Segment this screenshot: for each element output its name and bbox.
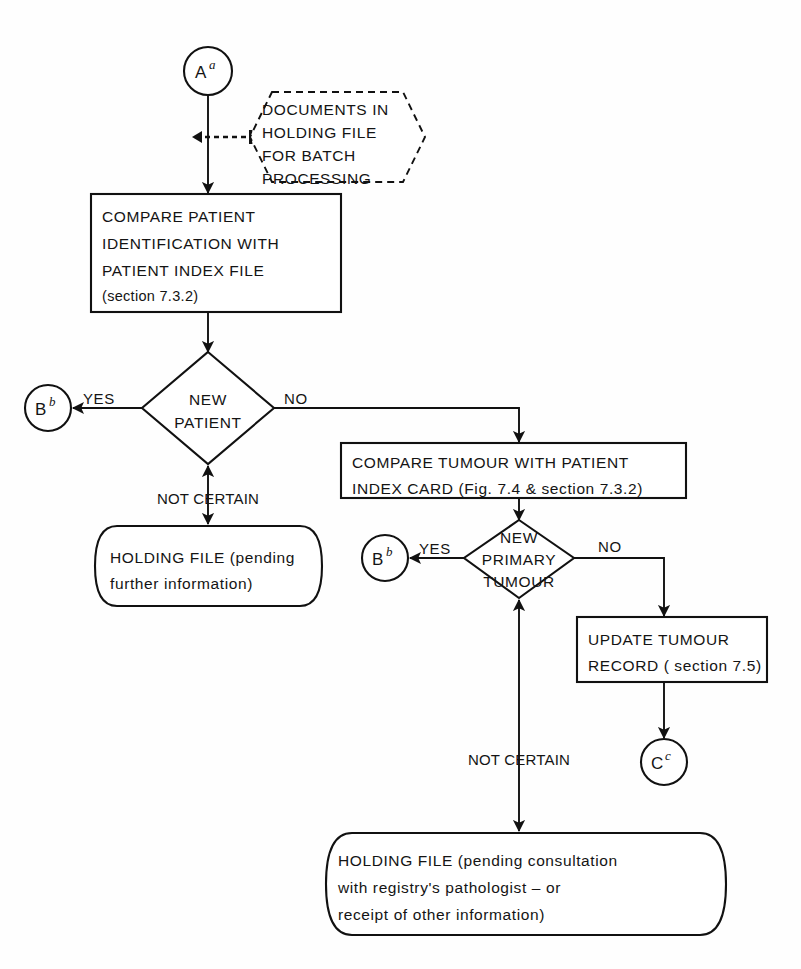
- flowchart-diagram: A a DOCUMENTS IN HOLDING FILE FOR BATCH …: [0, 0, 801, 969]
- terminal-holding-file-2-line-1: HOLDING FILE (pending consultation: [338, 852, 618, 869]
- process-compare-tumour[interactable]: COMPARE TUMOUR WITH PATIENT INDEX CARD (…: [341, 443, 686, 498]
- label-new-primary-not-certain: NOT CERTAIN: [468, 751, 570, 768]
- process-compare-tumour-line-2: INDEX CARD (Fig. 7.4 & section 7.3.2): [352, 480, 643, 497]
- label-new-patient-no: NO: [284, 390, 308, 407]
- decision-new-primary-tumour-line-3: TUMOUR: [483, 573, 555, 590]
- decision-new-patient[interactable]: NEW PATIENT: [142, 352, 274, 464]
- decision-new-primary-tumour-line-1: NEW: [500, 529, 538, 546]
- decision-new-primary-tumour[interactable]: NEW PRIMARY TUMOUR: [464, 520, 574, 598]
- terminal-holding-file-2-line-3: receipt of other information): [338, 906, 545, 923]
- connector-c-superscript: c: [665, 748, 671, 763]
- connector-b-top[interactable]: B b: [25, 385, 71, 431]
- terminal-holding-file-2[interactable]: HOLDING FILE (pending consultation with …: [326, 833, 726, 935]
- process-compare-patient-line-4: (section 7.3.2): [102, 288, 198, 304]
- edge-new-primary-no: [574, 558, 664, 616]
- terminal-holding-file-2-line-2: with registry's pathologist – or: [337, 879, 561, 896]
- terminal-holding-file-1-line-2: further information): [110, 575, 253, 592]
- connector-b-mid-letter: B: [372, 550, 383, 569]
- decision-new-patient-line-1: NEW: [189, 391, 227, 408]
- connector-a-superscript: a: [209, 57, 216, 72]
- process-compare-patient-line-1: COMPARE PATIENT: [102, 208, 256, 225]
- label-new-primary-no: NO: [598, 538, 622, 555]
- process-compare-patient-line-2: IDENTIFICATION WITH: [102, 235, 279, 252]
- annotation-line-3: FOR BATCH: [262, 147, 356, 164]
- label-new-patient-yes: YES: [83, 390, 115, 407]
- decision-new-patient-line-2: PATIENT: [174, 414, 241, 431]
- connector-b-mid[interactable]: B b: [362, 535, 408, 581]
- process-compare-patient-line-3: PATIENT INDEX FILE: [102, 262, 264, 279]
- process-compare-patient-identification[interactable]: COMPARE PATIENT IDENTIFICATION WITH PATI…: [91, 194, 341, 312]
- connector-b-mid-superscript: b: [386, 544, 393, 559]
- annotation-line-2: HOLDING FILE: [262, 124, 377, 141]
- annotation-line-1: DOCUMENTS IN: [262, 101, 389, 118]
- connector-c-letter: C: [651, 754, 663, 773]
- label-new-patient-not-certain: NOT CERTAIN: [157, 490, 259, 507]
- annotation-documents-holding-file: DOCUMENTS IN HOLDING FILE FOR BATCH PROC…: [250, 92, 425, 187]
- terminal-holding-file-1[interactable]: HOLDING FILE (pending further informatio…: [95, 526, 322, 606]
- process-update-tumour-line-1: UPDATE TUMOUR: [588, 631, 730, 648]
- edge-new-patient-no: [274, 408, 519, 442]
- connector-b-top-letter: B: [35, 400, 46, 419]
- annotation-line-4: PROCESSING: [262, 170, 371, 187]
- connector-c[interactable]: C c: [641, 739, 687, 785]
- process-update-tumour-record[interactable]: UPDATE TUMOUR RECORD ( section 7.5): [577, 617, 767, 682]
- connector-b-top-superscript: b: [49, 394, 56, 409]
- terminal-holding-file-1-line-1: HOLDING FILE (pending: [110, 549, 295, 566]
- label-new-primary-yes: YES: [419, 540, 451, 557]
- connector-a-letter: A: [195, 63, 207, 82]
- flowchart-canvas: A a DOCUMENTS IN HOLDING FILE FOR BATCH …: [0, 0, 801, 969]
- connector-a[interactable]: A a: [184, 47, 232, 95]
- decision-new-primary-tumour-line-2: PRIMARY: [482, 551, 557, 568]
- edge-annotation-tie: [192, 130, 252, 144]
- process-update-tumour-line-2: RECORD ( section 7.5): [588, 657, 762, 674]
- process-compare-tumour-line-1: COMPARE TUMOUR WITH PATIENT: [352, 454, 629, 471]
